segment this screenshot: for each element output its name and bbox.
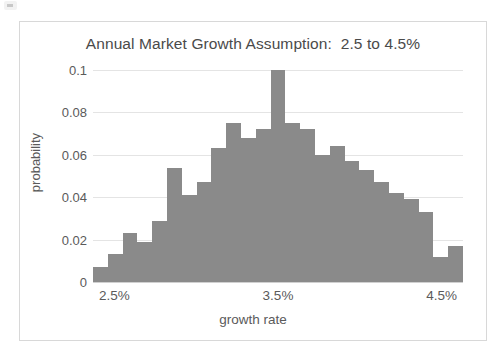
x-axis-tick: 2.5% <box>99 288 130 303</box>
x-axis-tick: 4.5% <box>426 288 457 303</box>
histogram-bar <box>93 267 108 282</box>
scan-artifact <box>4 1 17 10</box>
histogram-bar <box>404 199 419 282</box>
histogram-bar <box>108 254 123 282</box>
y-axis-label: probability <box>28 133 43 192</box>
histogram-bar <box>226 123 241 282</box>
histogram-bar <box>330 146 345 282</box>
y-axis-tick: 0.08 <box>62 105 87 120</box>
histogram-bar <box>419 212 434 282</box>
y-axis-tick: 0.06 <box>62 147 87 162</box>
histogram-bar <box>182 195 197 282</box>
x-axis-label: growth rate <box>20 312 486 327</box>
histogram-bar <box>211 148 226 282</box>
gridline <box>93 282 463 283</box>
histogram-bar <box>197 182 212 282</box>
histogram-bar <box>241 138 256 282</box>
histogram-bar <box>285 123 300 282</box>
histogram-bars <box>93 70 463 282</box>
x-axis-tick: 3.5% <box>263 288 294 303</box>
histogram-bar <box>345 161 360 282</box>
histogram-bar <box>433 257 448 282</box>
histogram-bar <box>448 246 463 282</box>
x-axis-tick-labels: 2.5%3.5%4.5% <box>93 288 463 308</box>
y-axis-tick: 0.04 <box>62 190 87 205</box>
histogram-bar <box>123 233 138 282</box>
histogram-bar <box>271 70 286 282</box>
histogram-bar <box>256 129 271 282</box>
histogram-bar <box>137 242 152 282</box>
histogram-bar <box>389 193 404 282</box>
y-axis-tick: 0.02 <box>62 232 87 247</box>
histogram-bar <box>359 170 374 282</box>
histogram-bar <box>300 129 315 282</box>
chart-title: Annual Market Growth Assumption: 2.5 to … <box>20 35 486 53</box>
y-axis-tick: 0.1 <box>69 63 87 78</box>
plot-area <box>93 70 463 282</box>
histogram-bar <box>374 182 389 282</box>
y-axis-tick-labels: 0.10.080.060.040.020 <box>40 70 87 282</box>
histogram-bar <box>167 168 182 282</box>
chart-figure: Annual Market Growth Assumption: 2.5 to … <box>19 21 487 341</box>
histogram-bar <box>152 221 167 282</box>
histogram-bar <box>315 155 330 282</box>
y-axis-tick: 0 <box>80 275 87 290</box>
